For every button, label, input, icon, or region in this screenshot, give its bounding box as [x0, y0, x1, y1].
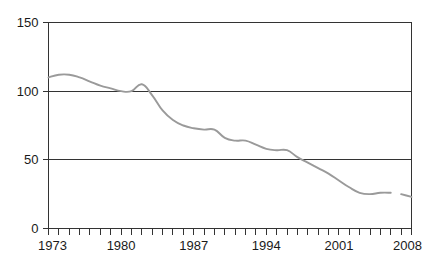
x-axis-tick-label: 1994 — [252, 238, 281, 253]
x-axis-tick-label: 1987 — [179, 238, 208, 253]
data-line-series-1-continued — [401, 194, 411, 197]
y-axis-tick-label: 100 — [17, 84, 39, 99]
y-axis-tick-label: 0 — [31, 221, 38, 236]
x-axis-tick-label: 1973 — [38, 238, 67, 253]
chart-canvas: 050100150197319801987199420012008 — [0, 0, 441, 268]
x-axis-tick-label: 2008 — [393, 238, 422, 253]
line-chart: 050100150197319801987199420012008 — [0, 0, 441, 268]
y-axis-tick-label: 50 — [24, 152, 38, 167]
data-line-series-1 — [49, 74, 391, 194]
y-axis-tick-label: 150 — [17, 15, 39, 30]
x-axis-tick-label: 1980 — [107, 238, 136, 253]
x-axis-tick-label: 2001 — [324, 238, 353, 253]
